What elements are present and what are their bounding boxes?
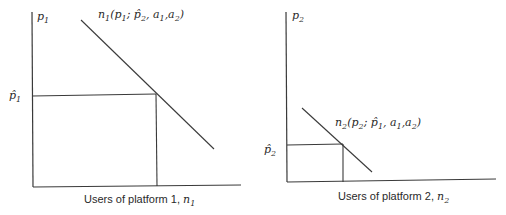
demand-curve-n1 xyxy=(81,20,214,149)
panel-platform-1: p1 p̂1 n1(p1; p̂2, a1,a2) Users of platf… xyxy=(9,8,241,208)
equilibrium-quantity-line-n1 xyxy=(156,94,157,186)
panel-platform-2: p2 p̂2 n2(p2; p̂1, a1,a2) Users of platf… xyxy=(264,9,496,205)
demand-curve-label-n1: n1(p1; p̂2, a1,a2) xyxy=(98,8,184,23)
demand-curve-label-n2: n2(p2; p̂1, a1,a2) xyxy=(335,116,421,131)
equilibrium-price-line-p2 xyxy=(287,144,343,145)
equilibrium-price-label-p1: p̂1 xyxy=(9,89,21,104)
x-axis-label-n1: Users of platform 1, n1 xyxy=(84,193,195,208)
y-axis-label-p2: p2 xyxy=(292,9,304,24)
x-axis-n1 xyxy=(33,185,241,187)
equilibrium-price-label-p2: p̂2 xyxy=(264,143,276,158)
two-sided-platform-demand-diagram: p1 p̂1 n1(p1; p̂2, a1,a2) Users of platf… xyxy=(0,0,506,215)
x-axis-label-n2: Users of platform 2, n2 xyxy=(338,190,449,205)
y-axis-p1 xyxy=(32,12,33,187)
x-axis-n2 xyxy=(287,179,496,182)
equilibrium-price-line-p1 xyxy=(32,94,156,96)
y-axis-p2 xyxy=(286,12,287,182)
y-axis-label-p1: p1 xyxy=(37,10,49,25)
